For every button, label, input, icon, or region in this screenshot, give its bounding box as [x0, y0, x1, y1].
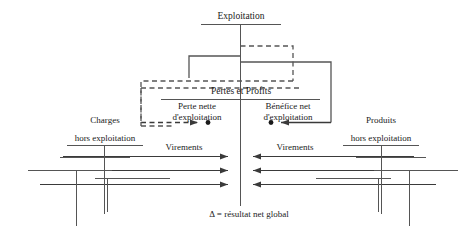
exploitation-label: Exploitation [218, 11, 265, 22]
produits-line2: hors exploitation [351, 133, 412, 144]
diagram-canvas [0, 0, 469, 236]
charges-line1: Charges [90, 115, 119, 126]
virements-right-label: Virements [277, 142, 314, 153]
left-subaccount-2 [95, 179, 170, 213]
produits-line1: Produits [366, 115, 396, 126]
produits-t-account [343, 146, 419, 215]
benefice-net-line1: Bénéfice net [265, 101, 310, 112]
virements-left-label: Virements [166, 142, 203, 153]
perte-nette-line1: Perte nette [178, 101, 216, 112]
benefice-net-line2: d'exploitation [263, 112, 312, 123]
pertes-et-profits-label: Pertes et Profits [211, 86, 271, 97]
perte-nette-line2: d'exploitation [172, 112, 221, 123]
charges-t-account [67, 146, 143, 215]
charges-line2: hors exploitation [75, 133, 136, 144]
resultat-net-global-label: Δ = résultat net global [209, 209, 288, 220]
accounting-flow-diagram: Exploitation Pertes et Profits Perte net… [0, 0, 469, 236]
right-subaccount-2 [316, 179, 391, 213]
